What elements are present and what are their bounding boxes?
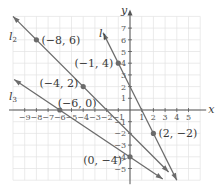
x-tick-label: −4 [77, 113, 89, 122]
y-tick-label: −2 [114, 129, 126, 138]
y-tick-label: 2 [121, 83, 126, 92]
coordinate-graph: xy−9−8−7−6−5−4−3−2−112345−5−4−3−2−112345… [0, 0, 218, 186]
point-label: (0, −4) [83, 154, 122, 167]
point-label: (−4, 2) [39, 77, 78, 90]
x-tick-label: 4 [174, 113, 179, 122]
x-tick-label: −6 [54, 113, 66, 122]
y-tick-label: −3 [114, 141, 126, 150]
x-tick-label: −8 [31, 113, 43, 122]
labels: l1l2l3(−8, 6)(−1, 4)(−4, 2)(−6, 0)(2, −2… [9, 27, 197, 167]
y-tick-label: 7 [121, 24, 126, 33]
y-tick-label: 1 [121, 94, 126, 103]
point-marker [116, 61, 121, 66]
point-marker [127, 154, 132, 159]
x-tick-label: 2 [151, 113, 156, 122]
y-tick-label: 5 [121, 48, 126, 57]
point-marker [34, 37, 39, 42]
point-label: (−6, 0) [58, 97, 97, 110]
y-tick-label: 4 [121, 59, 126, 68]
y-tick-label: 6 [121, 36, 126, 45]
point-label: (−1, 4) [75, 57, 114, 70]
point-marker [151, 131, 156, 136]
x-tick-label: −9 [19, 113, 31, 122]
x-axis-label: x [208, 103, 215, 116]
point-label: (−8, 6) [41, 34, 80, 47]
x-tick-label: 5 [186, 113, 191, 122]
point-marker [81, 84, 86, 89]
line-label-l1: l1 [99, 27, 107, 41]
x-tick-label: 3 [163, 113, 168, 122]
point-label: (2, −2) [158, 127, 197, 140]
y-axis-label: y [120, 4, 128, 17]
x-tick-label: −7 [42, 113, 54, 122]
x-tick-label: −3 [89, 113, 101, 122]
